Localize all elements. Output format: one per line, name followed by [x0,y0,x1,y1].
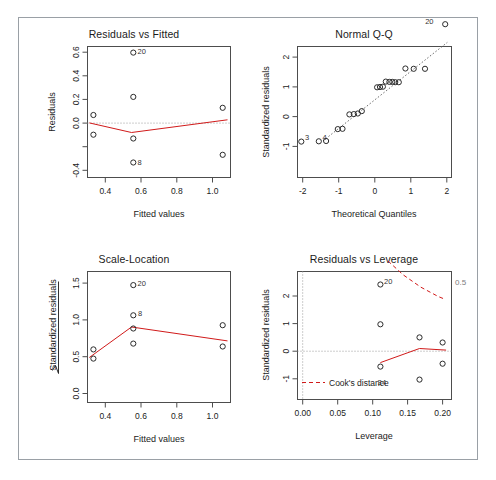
cooks-distance-legend-label: Cook's distance [329,378,389,388]
x-tick-label-1-0: 1.0 [207,411,219,421]
loess-smooth-line [89,327,227,358]
x-axis-title: Leverage [355,431,393,441]
x-tick-label-0-4: 0.4 [99,186,111,196]
y-tick-label-0: 0 [281,114,291,119]
y-tick-label-2: 2 [281,54,291,59]
y-tick-label-0-4: 0.4 [71,70,81,82]
plot-box [88,47,231,178]
x-tick-label-0-00: 0.00 [294,408,311,418]
data-points [91,283,225,362]
plot-residuals-vs-fitted: 20 8 0.6 0.4 0.2 0.0 -0.4 Residuals [19,18,249,239]
x-tick-label-0: 0 [372,186,377,196]
y-tick-label-0-0: 0.0 [71,117,81,129]
cooks-distance-legend: Cook's distance [302,378,389,388]
y-tick-label-0-6: 0.6 [71,46,81,58]
point-label-8: 8 [138,158,142,167]
y-axis-title-group: Standardized residuals [48,279,59,374]
x-axis-ticks [303,400,443,405]
x-tick-label-0-8: 0.8 [171,186,183,196]
y-tick-label-0-2: 0.2 [71,93,81,105]
x-tick-label-0-15: 0.15 [399,408,416,418]
cooks-distance-contour [388,261,445,299]
y-tick-label-1: 1 [281,321,291,326]
point-label-20: 20 [384,277,392,286]
point-label-20: 20 [425,17,433,26]
x-axis-title: Theoretical Quantiles [331,209,417,219]
plot-normal-qq: 3 4 20 2 1 0 -1 Standardized residuals [249,18,479,239]
y-tick-label-0-5: 0.5 [71,351,81,363]
y-tick-label-2: 2 [281,293,291,298]
x-tick-label-2: 2 [444,186,449,196]
plot-box [298,47,452,178]
x-axis-ticks [105,403,212,408]
data-points [378,282,445,382]
x-tick-label-0-4: 0.4 [99,411,111,421]
panel-scale-location: Scale-Location 20 8 [19,239,249,461]
point-label-3: 3 [305,133,309,142]
data-points [299,22,448,145]
data-points [91,50,225,165]
y-tick-label-neg-1: -1 [281,375,291,383]
loess-smooth-line [89,120,227,133]
panel-normal-qq: Normal Q-Q [249,18,479,239]
x-axis-ticks [105,178,212,183]
y-tick-label-0-0: 0.0 [71,387,81,399]
x-tick-label-0-20: 0.20 [434,408,451,418]
x-tick-label-1-0: 1.0 [207,186,219,196]
y-tick-label-neg-1: -1 [281,142,291,150]
point-label-8: 8 [138,309,142,318]
y-tick-label-1: 1 [281,84,291,89]
y-tick-label-1-0: 1.0 [71,314,81,326]
loess-smooth-line [380,349,446,363]
y-axis-ticks [293,57,298,146]
panel-residuals-vs-fitted: Residuals vs Fitted 20 8 [19,18,249,239]
x-tick-label-1: 1 [408,186,413,196]
y-tick-label-neg-0-4: -0.4 [71,163,81,178]
y-axis-ticks [83,52,88,170]
y-axis-ticks [293,296,298,379]
x-tick-label-neg-2: -2 [299,186,307,196]
plot-residuals-vs-leverage: 0.5 3 4 20 Cook's distance [249,239,479,461]
plot-scale-location: 20 8 1.5 1.0 0.5 0.0 Standardized residu… [19,239,249,461]
x-axis-ticks [303,178,447,183]
figure-frame: Residuals vs Fitted 20 8 [18,17,478,460]
cooks-contour-label-0-5: 0.5 [455,278,467,287]
x-tick-label-0-6: 0.6 [135,411,147,421]
y-tick-label-1-5: 1.5 [71,277,81,289]
x-tick-label-neg-1: -1 [335,186,343,196]
y-axis-title: Standardized residuals [261,66,271,158]
y-axis-title: Standardized residuals [261,289,271,381]
x-axis-title: Fitted values [133,209,185,219]
y-axis-ticks [83,283,88,393]
x-tick-label-0-6: 0.6 [135,186,147,196]
x-tick-label-0-8: 0.8 [171,411,183,421]
y-tick-label-0: 0 [281,349,291,354]
x-tick-label-0-10: 0.10 [364,408,381,418]
x-axis-title: Fitted values [133,434,185,444]
point-label-20: 20 [138,47,146,56]
panel-residuals-vs-leverage: Residuals vs Leverage 0.5 [249,239,479,461]
y-axis-title: Residuals [47,92,57,132]
y-axis-title: Standardized residuals [48,279,58,371]
x-tick-label-0-05: 0.05 [329,408,346,418]
point-label-4: 4 [322,133,326,142]
point-label-20: 20 [138,279,146,288]
plot-box [88,272,231,403]
